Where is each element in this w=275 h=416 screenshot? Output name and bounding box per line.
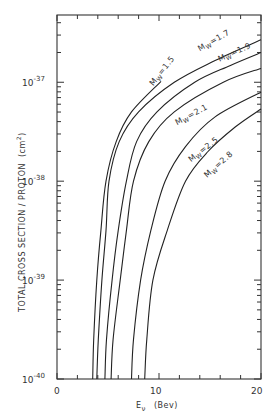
x-axis-label: Eν(Bev) <box>136 401 178 413</box>
curve-label: MW=1.7 <box>196 28 232 54</box>
curve-mw-2-5 <box>132 92 262 379</box>
curve-label: MW=2.8 <box>202 149 235 180</box>
curve-label: MW=1.9 <box>217 41 253 64</box>
curves <box>93 40 261 379</box>
curve-label: MW=2.1 <box>174 102 210 127</box>
x-tick-label-0: 0 <box>54 386 60 396</box>
x-tick-label-10: 10 <box>150 386 162 396</box>
y-axis-label: TOTAL CROSS SECTION / PROTON(cm2) <box>15 132 27 313</box>
y-tick-label-1e-37: 10-37 <box>22 75 45 88</box>
cross-section-chart: 10-40 10-39 10-38 10-37 0 10 20 Eν(Bev) … <box>0 0 275 416</box>
y-tick-label-1e-40: 10-40 <box>22 372 45 385</box>
x-tick-label-20: 20 <box>251 386 263 396</box>
